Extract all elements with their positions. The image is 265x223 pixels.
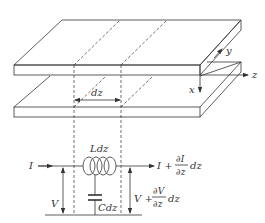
- input-current-label: I: [28, 160, 34, 171]
- x-axis-label: x: [189, 84, 195, 95]
- capacitor-label: Cdz: [98, 202, 118, 213]
- output-voltage-base: V +: [134, 193, 153, 204]
- bottom-plate: [14, 62, 241, 117]
- top-plate: [14, 20, 241, 75]
- output-voltage-tail: dz: [168, 193, 180, 204]
- output-current-num: ∂I: [176, 154, 185, 164]
- inductor-label: Ldz: [89, 143, 109, 154]
- dz-dimension: dz: [75, 87, 120, 100]
- capacitor-icon: [88, 195, 102, 200]
- coordinate-axes: z x y: [189, 45, 258, 95]
- output-voltage-num: ∂V: [153, 186, 166, 196]
- output-current-base: I +: [156, 160, 173, 171]
- output-voltage-den: ∂z: [153, 199, 163, 209]
- output-current-tail: dz: [190, 160, 202, 171]
- inductor-icon: [83, 157, 116, 175]
- z-axis-label: z: [251, 69, 258, 80]
- equivalent-circuit: I Ldz I + ∂I ∂z dz Cdz V V + ∂V: [28, 143, 202, 215]
- dz-label: dz: [91, 87, 103, 98]
- output-current-den: ∂z: [176, 167, 186, 177]
- transmission-line-diagram: dz z x y I Ldz I + ∂I ∂z dz: [0, 0, 265, 223]
- y-axis-label: y: [225, 45, 232, 56]
- input-voltage-label: V: [51, 198, 60, 209]
